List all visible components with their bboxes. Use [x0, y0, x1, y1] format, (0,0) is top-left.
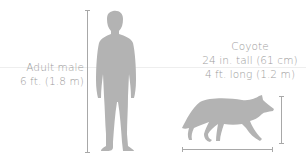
man-silhouette-icon: [93, 10, 139, 154]
man-label: Adult male 6 ft. (1.8 m): [20, 60, 84, 88]
man-height-bar: [87, 10, 88, 152]
coyote-name: Coyote: [190, 39, 306, 53]
coyote-height: 24 in. tall (61 cm): [190, 53, 306, 67]
coyote-length-bar-left-cap: [182, 147, 183, 152]
coyote-length-bar: [182, 149, 273, 150]
man-height-bar-top-cap: [85, 10, 90, 11]
man-height-bar-bottom-cap: [85, 152, 90, 153]
coyote-height-bar: [281, 96, 282, 143]
man-name: Adult male: [20, 60, 84, 74]
coyote-length-bar-right-cap: [272, 147, 273, 152]
coyote-height-bar-top-cap: [279, 96, 284, 97]
coyote-silhouette-icon: [180, 94, 276, 144]
coyote-label: Coyote 24 in. tall (61 cm) 4 ft. long (1…: [190, 39, 306, 81]
man-height: 6 ft. (1.8 m): [20, 74, 84, 88]
coyote-height-bar-bottom-cap: [279, 143, 284, 144]
coyote-length: 4 ft. long (1.2 m): [190, 67, 306, 81]
